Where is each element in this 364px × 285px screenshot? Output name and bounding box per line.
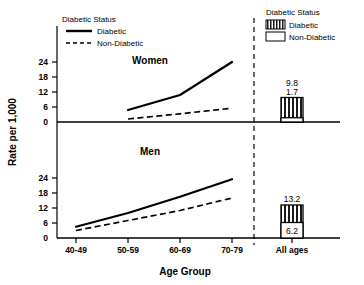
x-label-40-49: 40-49 [65,245,87,255]
y-tick-label-0-women: 0 [43,117,48,127]
y-tick-label-24-women: 24 [39,57,49,67]
bar-value-men-non-diabetic: 6.2 [286,226,298,236]
panel-title-women: Women [132,55,168,66]
diabetic-rate-chart: 24 18 12 6 0 24 18 12 6 0 Rate per 1,000… [0,0,364,285]
chart-background [0,0,364,285]
y-tick-label-12-men: 12 [39,203,49,213]
bar-women-non-diabetic [281,118,303,122]
panel-title-men: Men [140,146,160,157]
bar-legend-label-non-diabetic: Non-Diabetic [289,33,335,42]
line-legend-title: Diabetic Status [62,15,116,24]
bar-value-women-non-diabetic: 1.7 [286,87,298,97]
y-axis-title: Rate per 1,000 [7,98,18,166]
y-tick-label-18-women: 18 [39,72,49,82]
bar-legend-swatch-diabetic [266,20,285,29]
y-tick-label-18-men: 18 [39,188,49,198]
x-axis-title: Age Group [159,266,211,277]
bar-legend-label-diabetic: Diabetic [289,21,318,30]
x-label-70-79: 70-79 [221,245,243,255]
x-label-50-59: 50-59 [117,245,139,255]
line-legend-label-non-diabetic: Non-Diabetic [97,39,143,48]
x-label-60-69: 60-69 [169,245,191,255]
bar-legend-swatch-non-diabetic [266,32,285,41]
x-label-all-ages: All ages [276,245,309,255]
y-tick-label-6-men: 6 [43,218,48,228]
bar-group-men: 13.2 6.2 [281,194,303,238]
bar-legend-title: Diabetic Status [266,8,320,17]
y-tick-label-6-women: 6 [43,102,48,112]
y-tick-label-12-women: 12 [39,87,49,97]
y-tick-label-24-men: 24 [39,173,49,183]
line-legend-label-diabetic: Diabetic [97,27,126,36]
chart-container: 24 18 12 6 0 24 18 12 6 0 Rate per 1,000… [0,0,364,285]
bar-value-men-diabetic: 13.2 [284,194,301,204]
y-tick-label-0-men: 0 [43,233,48,243]
